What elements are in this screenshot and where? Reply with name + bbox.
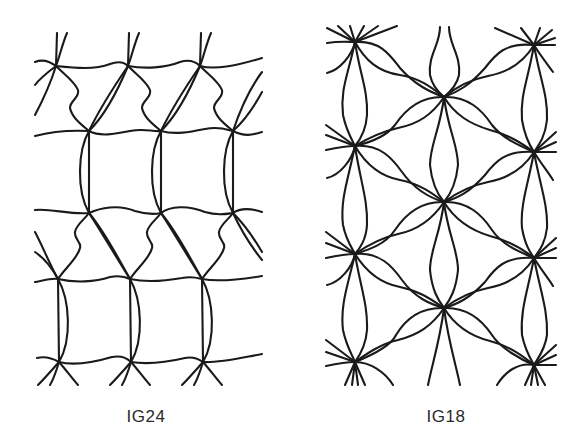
figure-caption-ig24: IG24 (86, 407, 206, 427)
figure-ig24: IG24 (0, 0, 290, 443)
mesh-pattern-ig18 (290, 0, 581, 400)
figure-ig18: IG18 (290, 0, 581, 443)
mesh-pattern-ig24 (0, 0, 290, 400)
figure-caption-ig18: IG18 (386, 407, 506, 427)
